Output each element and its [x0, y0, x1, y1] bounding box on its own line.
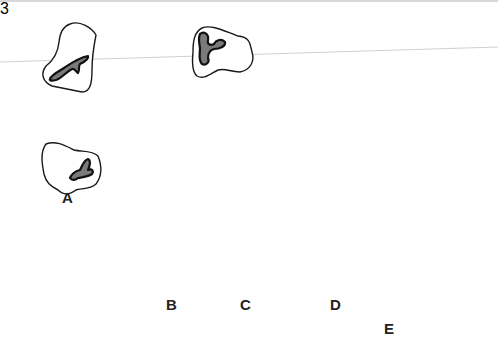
diagram-canvas — [0, 0, 498, 345]
label-C: C — [240, 297, 251, 312]
label-B: B — [166, 297, 177, 312]
label-D: D — [330, 297, 341, 312]
leukocyte-A — [42, 143, 101, 194]
label-E: E — [384, 321, 394, 336]
label-A: A — [62, 190, 73, 205]
leukocyte-free-1 — [43, 23, 96, 92]
leukocyte-free-2 — [192, 27, 252, 77]
